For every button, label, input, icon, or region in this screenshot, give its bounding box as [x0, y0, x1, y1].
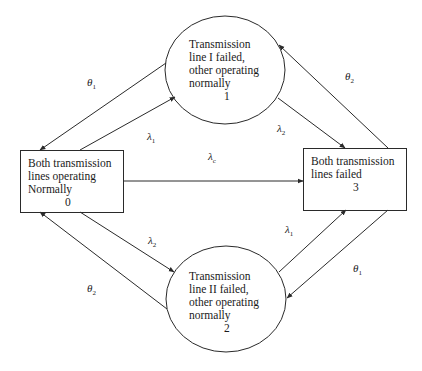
- state-2-line: Transmission: [189, 270, 259, 283]
- state-2-number: 2: [189, 322, 259, 335]
- state-0-number: 0: [28, 196, 111, 209]
- edge-label-theta1-upper: θ1: [87, 76, 96, 91]
- state-2-line: normally: [189, 309, 259, 322]
- state-1-line: line I failed,: [189, 51, 259, 64]
- label-subscript: 1: [290, 230, 294, 238]
- state-0-line: Both transmission: [28, 157, 111, 170]
- label-subscript: 2: [350, 77, 354, 85]
- edge-2-to-3-lambda1: [279, 210, 346, 272]
- label-subscript: 1: [92, 83, 96, 91]
- state-3-number: 3: [311, 181, 394, 194]
- edge-label-theta2-upper: θ2: [345, 70, 354, 85]
- edge-3-to-2-theta1: [287, 210, 388, 298]
- state-1-line: normally: [189, 77, 259, 90]
- label-subscript: c: [213, 157, 216, 165]
- edge-1-to-3-lambda2: [278, 98, 345, 148]
- edge-label-lambdac: λc: [208, 150, 216, 165]
- state-3-line: lines failed: [311, 168, 394, 181]
- label-subscript: 2: [153, 241, 157, 249]
- label-subscript: 1: [358, 269, 362, 277]
- edge-label-theta2-lower: θ2: [87, 282, 96, 297]
- label-subscript: 2: [282, 129, 286, 137]
- state-2-line: other operating: [189, 296, 259, 309]
- state-0-line: Normally: [28, 183, 111, 196]
- state-0-text: Both transmission lines operating Normal…: [28, 157, 111, 209]
- edge-0-to-1-lambda1: [80, 97, 175, 150]
- edge-label-lambda2-upper: λ2: [277, 122, 285, 137]
- state-2-line: line II failed,: [189, 283, 259, 296]
- state-1-line: Transmission: [189, 38, 259, 51]
- label-subscript: 1: [152, 137, 156, 145]
- edge-label-lambda1-lower: λ1: [285, 223, 293, 238]
- state-3-line: Both transmission: [311, 155, 394, 168]
- edge-0-to-2-lambda2: [80, 212, 174, 272]
- edge-label-lambda2-lower: λ2: [148, 234, 156, 249]
- state-3-text: Both transmission lines failed 3: [311, 155, 394, 194]
- state-2-text: Transmission line II failed, other opera…: [189, 270, 259, 335]
- state-1-line: other operating: [189, 64, 259, 77]
- state-1-text: Transmission line I failed, other operat…: [189, 38, 259, 103]
- edge-3-to-1-theta2: [279, 45, 388, 148]
- state-1-number: 1: [189, 90, 259, 103]
- edge-label-theta1-lower: θ1: [353, 262, 362, 277]
- state-0-line: lines operating: [28, 170, 111, 183]
- edge-label-lambda1-upper: λ1: [147, 130, 155, 145]
- label-subscript: 2: [92, 289, 96, 297]
